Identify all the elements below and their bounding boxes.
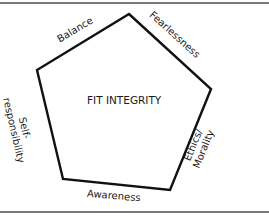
diagram-title: FIT INTEGRITY (87, 94, 161, 106)
pentagon-shape (0, 0, 269, 220)
